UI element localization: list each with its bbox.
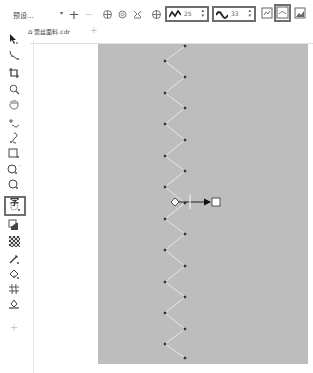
document-tab[interactable]: ⌂ 蕾丝面料.cdr [28, 26, 70, 37]
transparency-tool[interactable] [6, 234, 22, 248]
mesh-fill-tool[interactable] [6, 282, 22, 296]
zipper-distortion-icon[interactable] [116, 7, 128, 21]
mesh-grid-icon [8, 283, 20, 295]
add-preset-button[interactable]: + [68, 7, 80, 21]
frequency-value: 25 [184, 10, 192, 17]
crosshair-distortion-icon[interactable] [150, 7, 162, 21]
vertical-ruler[interactable] [28, 40, 34, 373]
distort-tool[interactable] [4, 196, 26, 216]
customize-toolbox-button[interactable]: + [6, 320, 22, 334]
smart-fill-tool[interactable] [6, 297, 22, 311]
node-point[interactable] [164, 123, 166, 125]
amplitude-value: 33 [231, 10, 239, 17]
brush-curve-icon [9, 132, 20, 144]
local-distortion-button[interactable] [294, 7, 306, 20]
node-point[interactable] [164, 312, 166, 314]
freehand-icon [8, 117, 20, 129]
zigzag-distorted-line[interactable] [98, 44, 308, 364]
node-point[interactable] [184, 233, 186, 235]
node-point[interactable] [164, 186, 166, 188]
node-point[interactable] [184, 76, 186, 78]
random-distortion-button[interactable] [261, 7, 273, 20]
toolbox: 字 + [0, 30, 26, 373]
paint-bucket-icon [8, 268, 20, 280]
smart-fill-icon [8, 298, 20, 310]
node-point[interactable] [164, 281, 166, 283]
node-point[interactable] [164, 155, 166, 157]
polygon-tool[interactable] [6, 177, 22, 191]
property-bar: 预设... ▾ + − 25 ▴▾ 33 ▴▾ [0, 0, 313, 28]
artistic-media-tool[interactable] [6, 131, 22, 145]
node-point[interactable] [184, 265, 186, 267]
document-tab-bar: ⌂ 蕾丝面料.cdr + [24, 26, 313, 38]
drop-shadow-tool[interactable] [6, 218, 22, 232]
push-distortion-icon[interactable] [101, 7, 113, 21]
zoom-tool[interactable] [6, 82, 22, 96]
node-point[interactable] [184, 296, 186, 298]
node-point[interactable] [164, 60, 166, 62]
node-point[interactable] [184, 139, 186, 141]
hand-icon [9, 98, 20, 110]
shape-tool[interactable] [6, 48, 22, 62]
node-point[interactable] [164, 218, 166, 220]
magnifier-icon [9, 84, 20, 95]
drop-shadow-icon [8, 219, 20, 231]
pan-tool[interactable] [6, 97, 22, 111]
preset-label: 预设... [13, 10, 34, 20]
frequency-spinbox[interactable]: 25 ▴▾ [165, 6, 209, 22]
distort-icon [9, 200, 21, 212]
document-tab-title: 蕾丝面料.cdr [34, 27, 69, 36]
new-tab-button[interactable]: + [90, 25, 98, 35]
wave-amplitude-icon [216, 9, 228, 19]
node-point[interactable] [184, 107, 186, 109]
preset-dropdown[interactable]: 预设... ▾ [13, 9, 65, 21]
rectangle-icon [8, 147, 20, 159]
node-edit-icon [8, 49, 20, 61]
checkerboard-icon [9, 236, 20, 247]
rectangle-tool[interactable] [6, 146, 22, 160]
ellipse-icon [7, 163, 21, 175]
node-point[interactable] [184, 328, 186, 330]
polygon-icon [8, 178, 20, 190]
node-point[interactable] [164, 343, 166, 345]
node-point[interactable] [184, 45, 186, 47]
distortion-end-handle[interactable] [212, 198, 220, 206]
freehand-tool[interactable] [6, 116, 22, 130]
crop-icon [8, 67, 20, 79]
eyedropper-icon [8, 253, 20, 265]
color-eyedropper-tool[interactable] [6, 252, 22, 266]
home-icon: ⌂ [28, 28, 32, 36]
zigzag-frequency-icon [169, 9, 181, 19]
arrow-head-icon [204, 199, 211, 206]
node-point[interactable] [184, 170, 186, 172]
interactive-fill-tool[interactable] [6, 267, 22, 281]
distortion-start-handle[interactable] [171, 198, 179, 206]
drawing-canvas[interactable] [98, 44, 308, 364]
node-point[interactable] [164, 92, 166, 94]
ellipse-tool[interactable] [6, 162, 22, 176]
amplitude-spinbox[interactable]: 33 ▴▾ [212, 6, 256, 22]
pick-tool[interactable] [6, 32, 22, 46]
arrow-cursor-icon [9, 33, 19, 45]
spin-arrows-icon[interactable]: ▴▾ [201, 8, 204, 18]
spin-arrows-icon[interactable]: ▴▾ [248, 8, 251, 18]
chevron-down-icon: ▾ [60, 9, 63, 16]
node-point[interactable] [184, 357, 186, 359]
node-point[interactable] [164, 249, 166, 251]
smooth-distortion-button[interactable] [274, 4, 291, 22]
twist-distortion-icon[interactable] [131, 7, 143, 21]
remove-preset-button[interactable]: − [83, 7, 95, 21]
crop-tool[interactable] [6, 66, 22, 80]
